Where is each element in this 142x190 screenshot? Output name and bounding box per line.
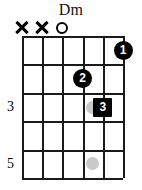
fret-number-label: 3: [2, 100, 19, 114]
fret-line: [22, 121, 123, 123]
string-line: [22, 36, 24, 178]
fret-line: [22, 64, 123, 66]
chord-name-title: Dm: [0, 1, 142, 19]
string-line: [62, 36, 64, 178]
finger-marker[interactable]: 1: [114, 41, 133, 60]
fret-line: [22, 178, 123, 180]
fretboard-inlay-dot: [86, 157, 99, 170]
string-line: [42, 36, 44, 178]
finger-marker[interactable]: 3: [93, 98, 112, 117]
fret-number-label: 5: [2, 157, 19, 171]
fret-line: [22, 36, 123, 38]
fret-line: [22, 150, 123, 152]
string-line: [83, 36, 85, 178]
open-mute-marker-row: [22, 20, 123, 36]
open-circle-icon: [56, 22, 68, 34]
mute-x-icon: [35, 21, 50, 36]
string-state-marker[interactable]: [54, 20, 70, 36]
string-state-marker[interactable]: [14, 20, 30, 36]
string-state-marker[interactable]: [34, 20, 50, 36]
fret-line: [22, 93, 123, 95]
finger-marker[interactable]: 2: [73, 69, 92, 88]
mute-x-icon: [15, 21, 30, 36]
fretboard-grid: 123: [22, 36, 123, 178]
chord-diagram: Dm 123 35: [0, 0, 142, 190]
